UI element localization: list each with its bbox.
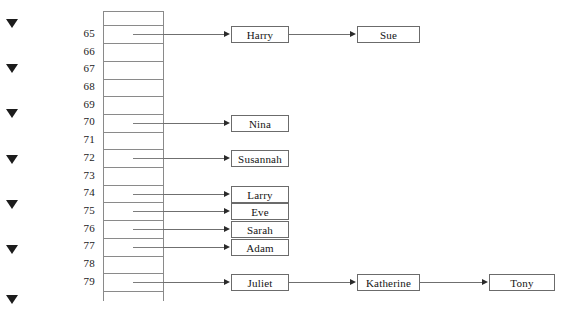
chain-connector	[289, 34, 350, 35]
slot-index-label: 79	[69, 275, 95, 288]
table-row-rule	[103, 79, 164, 80]
table-row-rule	[103, 220, 164, 221]
chain-connector	[163, 282, 224, 283]
chain-arrow-icon	[350, 279, 356, 285]
table-top-rule	[103, 11, 164, 12]
page-break-marker-icon	[6, 64, 18, 73]
slot-index-label: 69	[69, 98, 95, 111]
slot-index-label: 72	[69, 151, 95, 164]
slot-index-label: 78	[69, 257, 95, 270]
slot-pointer-stub	[133, 194, 163, 195]
chain-arrow-icon	[224, 191, 230, 197]
page-break-marker-icon	[6, 245, 18, 254]
table-row-rule	[103, 132, 164, 133]
slot-index-label: 70	[69, 115, 95, 128]
slot-pointer-stub	[133, 34, 163, 35]
slot-index-label: 65	[69, 27, 95, 40]
chain-node-box: Sue	[357, 26, 420, 43]
slot-pointer-stub	[133, 229, 163, 230]
chain-node-box: Adam	[231, 239, 289, 256]
table-row-rule	[103, 43, 164, 44]
slot-pointer-stub	[133, 211, 163, 212]
page-break-marker-icon	[6, 295, 18, 304]
slot-index-label: 76	[69, 222, 95, 235]
table-row-rule	[103, 238, 164, 239]
table-row-rule	[103, 202, 164, 203]
slot-index-label: 71	[69, 133, 95, 146]
hash-table-diagram: 65HarrySue6667686970Nina7172Susannah7374…	[0, 0, 565, 310]
slot-pointer-stub	[133, 123, 163, 124]
chain-node-box: Larry	[231, 186, 289, 203]
chain-arrow-icon	[224, 208, 230, 214]
table-row-rule	[103, 25, 164, 26]
chain-connector	[163, 194, 224, 195]
chain-connector	[163, 229, 224, 230]
page-break-marker-icon	[6, 109, 18, 118]
slot-pointer-stub	[133, 158, 163, 159]
slot-index-label: 67	[69, 62, 95, 75]
chain-connector	[289, 282, 350, 283]
chain-connector	[163, 34, 224, 35]
chain-connector	[163, 123, 224, 124]
slot-index-label: 73	[69, 169, 95, 182]
table-row-rule	[103, 256, 164, 257]
table-row-rule	[103, 149, 164, 150]
chain-arrow-icon	[482, 279, 488, 285]
chain-arrow-icon	[224, 31, 230, 37]
table-row-rule	[103, 273, 164, 274]
chain-arrow-icon	[224, 120, 230, 126]
chain-node-box: Harry	[231, 26, 289, 43]
table-row-rule	[103, 291, 164, 292]
slot-pointer-stub	[133, 247, 163, 248]
table-left-rule	[103, 11, 104, 301]
slot-index-label: 75	[69, 204, 95, 217]
chain-arrow-icon	[224, 226, 230, 232]
chain-arrow-icon	[350, 31, 356, 37]
chain-arrow-icon	[224, 155, 230, 161]
chain-node-box: Susannah	[231, 150, 289, 167]
chain-connector	[420, 282, 482, 283]
slot-index-label: 66	[69, 45, 95, 58]
chain-connector	[163, 247, 224, 248]
page-break-marker-icon	[6, 19, 18, 28]
chain-node-box: Tony	[489, 274, 555, 291]
table-row-rule	[103, 61, 164, 62]
chain-connector	[163, 158, 224, 159]
page-break-marker-icon	[6, 200, 18, 209]
chain-node-box: Katherine	[357, 274, 420, 291]
chain-connector	[163, 211, 224, 212]
chain-arrow-icon	[224, 279, 230, 285]
table-row-rule	[103, 167, 164, 168]
slot-pointer-stub	[133, 282, 163, 283]
table-right-rule	[163, 11, 164, 301]
table-row-rule	[103, 114, 164, 115]
page-break-marker-icon	[6, 155, 18, 164]
chain-node-box: Eve	[231, 203, 289, 220]
chain-node-box: Juliet	[231, 274, 289, 291]
slot-index-label: 74	[69, 186, 95, 199]
slot-index-label: 68	[69, 80, 95, 93]
table-row-rule	[103, 96, 164, 97]
chain-arrow-icon	[224, 244, 230, 250]
slot-index-label: 77	[69, 239, 95, 252]
chain-node-box: Sarah	[231, 221, 289, 238]
table-row-rule	[103, 185, 164, 186]
chain-node-box: Nina	[231, 115, 289, 132]
